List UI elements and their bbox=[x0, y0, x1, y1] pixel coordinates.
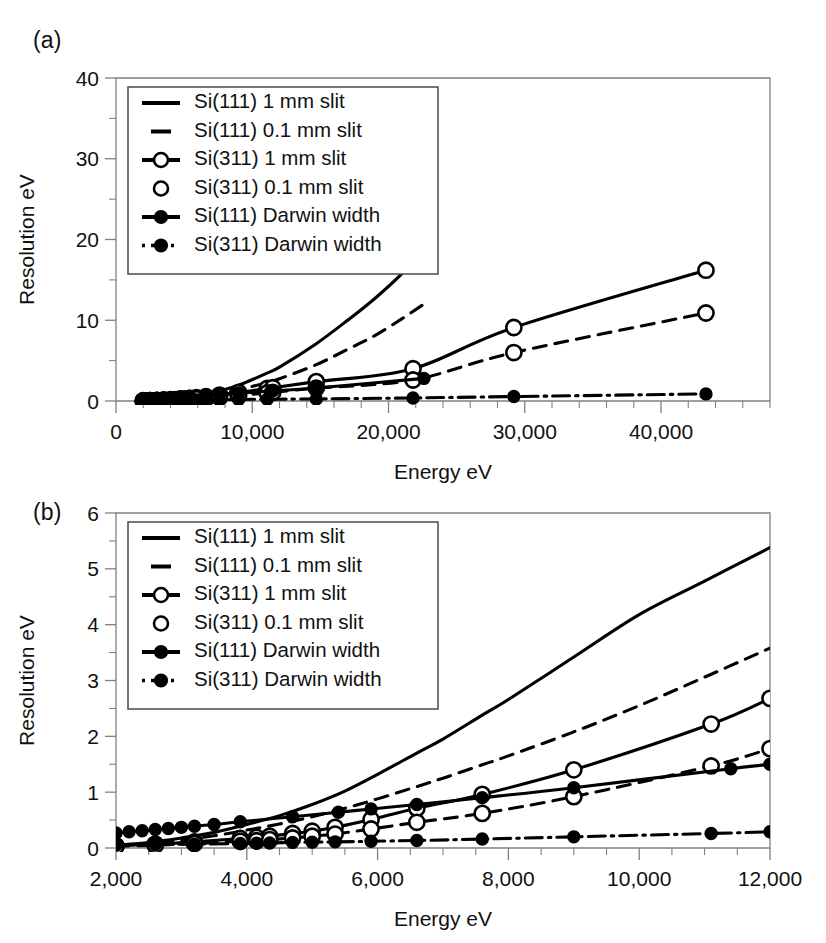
data-marker-3 bbox=[506, 345, 521, 360]
data-marker-3 bbox=[409, 815, 424, 830]
legend-marker-filled bbox=[155, 240, 167, 252]
data-marker-4 bbox=[163, 823, 174, 834]
data-marker-2 bbox=[704, 716, 719, 731]
data-marker-2 bbox=[506, 320, 521, 335]
legend-label-5: Si(311) Darwin width bbox=[194, 667, 382, 690]
data-marker-5 bbox=[508, 391, 519, 402]
data-marker-5 bbox=[311, 393, 322, 404]
y-tick-label: 1 bbox=[87, 781, 99, 804]
data-marker-5 bbox=[287, 837, 298, 848]
legend-label-2: Si(311) 1 mm slit bbox=[194, 581, 347, 604]
x-tick-label: 10,000 bbox=[607, 867, 671, 890]
x-tick-label: 4,000 bbox=[221, 867, 274, 890]
data-marker-4 bbox=[411, 799, 422, 810]
legend: Si(111) 1 mm slitSi(111) 0.1 mm slitSi(3… bbox=[128, 87, 438, 274]
plot-area-b: 01234562,0004,0006,0008,00010,00012,000E… bbox=[0, 471, 826, 943]
y-tick-label: 10 bbox=[76, 309, 99, 332]
legend: Si(111) 1 mm slitSi(111) 0.1 mm slitSi(3… bbox=[128, 522, 438, 709]
legend-marker-open bbox=[154, 617, 168, 631]
x-tick-label: 6,000 bbox=[351, 867, 404, 890]
y-tick-label: 2 bbox=[87, 725, 99, 748]
data-marker-3 bbox=[698, 305, 713, 320]
chart-panel-b: (b) 01234562,0004,0006,0008,00010,00012,… bbox=[0, 471, 826, 943]
y-axis-title: Resolution eV bbox=[15, 174, 38, 305]
legend-label-5: Si(311) Darwin width bbox=[194, 232, 382, 255]
legend-marker-filled bbox=[155, 211, 167, 223]
data-marker-5 bbox=[150, 839, 161, 850]
data-marker-4 bbox=[568, 782, 579, 793]
legend-marker-filled bbox=[155, 675, 167, 687]
data-marker-4 bbox=[477, 792, 488, 803]
data-marker-5 bbox=[251, 838, 262, 849]
data-marker-5 bbox=[307, 837, 318, 848]
data-marker-4 bbox=[176, 822, 187, 833]
plot-area-a: 010203040010,00020,00030,00040,000Energy… bbox=[0, 0, 826, 472]
legend-marker-open bbox=[154, 182, 168, 196]
y-tick-label: 30 bbox=[76, 147, 99, 170]
x-tick-label: 12,000 bbox=[738, 867, 802, 890]
data-marker-5 bbox=[411, 835, 422, 846]
data-marker-5 bbox=[568, 831, 579, 842]
data-marker-4 bbox=[333, 807, 344, 818]
data-marker-4 bbox=[725, 763, 736, 774]
data-marker-5 bbox=[365, 836, 376, 847]
y-tick-label: 40 bbox=[76, 67, 99, 90]
data-marker-5 bbox=[262, 394, 273, 405]
legend-marker-filled bbox=[155, 646, 167, 658]
data-marker-4 bbox=[209, 819, 220, 830]
legend-marker-open bbox=[154, 588, 168, 602]
legend-label-4: Si(111) Darwin width bbox=[194, 638, 380, 661]
data-marker-4 bbox=[137, 825, 148, 836]
data-marker-5 bbox=[233, 394, 244, 405]
data-marker-2 bbox=[698, 263, 713, 278]
data-marker-4 bbox=[311, 382, 322, 393]
figure-root: (a) 010203040010,00020,00030,00040,000En… bbox=[0, 0, 826, 943]
data-marker-5 bbox=[407, 392, 418, 403]
data-marker-5 bbox=[706, 828, 717, 839]
data-marker-5 bbox=[189, 838, 200, 849]
legend-label-4: Si(111) Darwin width bbox=[194, 203, 380, 226]
x-tick-label: 2,000 bbox=[90, 867, 143, 890]
data-marker-4 bbox=[287, 811, 298, 822]
data-marker-4 bbox=[110, 827, 121, 838]
y-tick-label: 0 bbox=[87, 837, 99, 860]
legend-label-0: Si(111) 1 mm slit bbox=[194, 89, 345, 112]
data-marker-4 bbox=[365, 803, 376, 814]
data-marker-2 bbox=[566, 762, 581, 777]
y-tick-label: 20 bbox=[76, 228, 99, 251]
data-marker-4 bbox=[150, 824, 161, 835]
data-marker-5 bbox=[700, 388, 711, 399]
x-tick-label: 20,000 bbox=[356, 420, 420, 443]
data-marker-5 bbox=[329, 836, 340, 847]
legend-marker-open bbox=[154, 153, 168, 167]
legend-label-3: Si(311) 0.1 mm slit bbox=[194, 610, 364, 633]
x-tick-label: 30,000 bbox=[493, 420, 557, 443]
x-tick-label: 40,000 bbox=[629, 420, 693, 443]
y-tick-label: 4 bbox=[87, 613, 99, 636]
legend-label-0: Si(111) 1 mm slit bbox=[194, 524, 345, 547]
data-marker-5 bbox=[764, 826, 775, 837]
data-marker-5 bbox=[264, 837, 275, 848]
data-marker-3 bbox=[762, 741, 777, 756]
legend-label-3: Si(311) 0.1 mm slit bbox=[194, 175, 364, 198]
y-tick-label: 6 bbox=[87, 502, 99, 525]
data-marker-5 bbox=[214, 394, 225, 405]
x-tick-label: 10,000 bbox=[220, 420, 284, 443]
x-axis-title: Energy eV bbox=[394, 907, 492, 930]
y-tick-label: 3 bbox=[87, 669, 99, 692]
legend-label-1: Si(111) 0.1 mm slit bbox=[194, 118, 362, 141]
data-marker-4 bbox=[764, 759, 775, 770]
data-marker-5 bbox=[235, 838, 246, 849]
data-marker-4 bbox=[189, 821, 200, 832]
data-marker-4 bbox=[235, 816, 246, 827]
data-marker-5 bbox=[200, 394, 211, 405]
legend-label-2: Si(311) 1 mm slit bbox=[194, 146, 347, 169]
y-tick-label: 5 bbox=[87, 557, 99, 580]
data-marker-3 bbox=[475, 806, 490, 821]
data-marker-4 bbox=[418, 373, 429, 384]
x-tick-label: 8,000 bbox=[482, 867, 535, 890]
data-marker-3 bbox=[363, 821, 378, 836]
data-marker-2 bbox=[762, 691, 777, 706]
data-marker-5 bbox=[477, 833, 488, 844]
y-tick-label: 0 bbox=[87, 390, 99, 413]
